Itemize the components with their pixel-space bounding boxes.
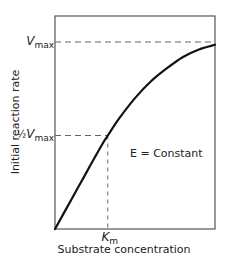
y-axis-label: Initial reaction rate xyxy=(9,69,22,174)
x-axis-label: Substrate concentration xyxy=(57,243,190,256)
vmax-label: Vmax xyxy=(26,34,55,50)
half-vmax-label: ½Vmax xyxy=(16,127,54,143)
half-vmax-label-sub: max xyxy=(34,133,54,143)
annotation-text: E = Constant xyxy=(130,147,203,160)
vmax-label-sub: max xyxy=(34,40,54,50)
series-line xyxy=(55,45,215,229)
plot-frame xyxy=(55,16,215,229)
chart: Vmax ½Vmax Km E = Constant Substrate con… xyxy=(0,0,226,266)
